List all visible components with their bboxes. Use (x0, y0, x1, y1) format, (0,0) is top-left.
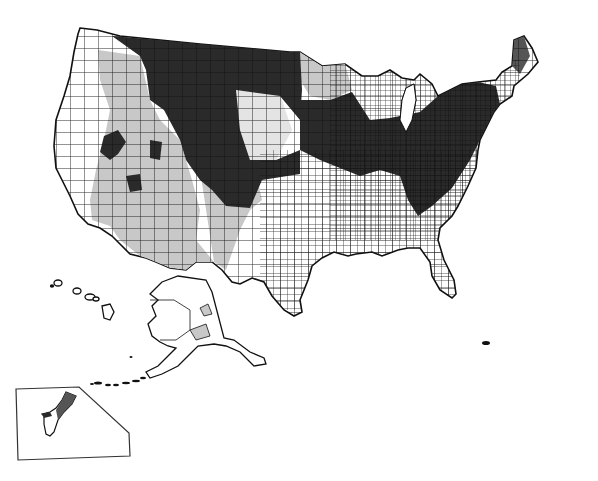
contiguous-us (0, 0, 598, 481)
alaska (90, 276, 266, 386)
hawaii (51, 280, 115, 320)
aleutian-islands (90, 356, 146, 386)
guam-inset (16, 387, 130, 460)
us-county-map (0, 0, 598, 481)
florida-keys (482, 341, 490, 345)
